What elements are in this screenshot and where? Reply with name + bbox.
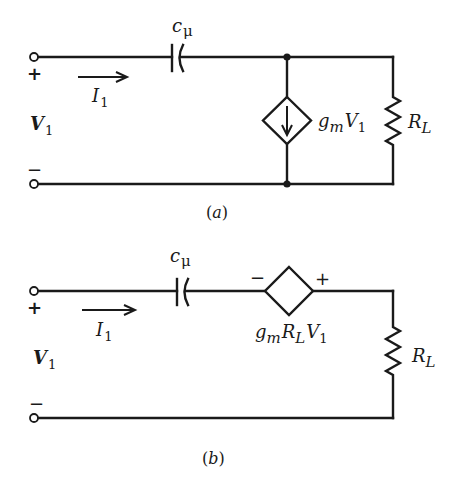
panel-a-voltage-label: V1 xyxy=(30,113,53,138)
panel-b-source-plus: + xyxy=(315,268,330,289)
panel-b-plus-sign: + xyxy=(27,297,42,318)
panel-b-load-label: RL xyxy=(411,345,436,371)
panel-a-dependent-current-source-icon xyxy=(263,97,311,144)
panel-b-voltage-label: V1 xyxy=(33,347,56,372)
panel-b-dependent-voltage-source-icon xyxy=(265,267,313,315)
panel-a-load-label: RL xyxy=(407,111,432,137)
panel-a-input-terminal-top xyxy=(30,53,38,61)
panel-b-current-label: I1 xyxy=(95,319,112,344)
panel-a-minus-sign: − xyxy=(27,159,42,180)
panel-b: cμ I1 + V1 − − + gmRLV1 RL (b) xyxy=(27,245,436,468)
panel-b-dependent-source-label: gmRLV1 xyxy=(255,321,328,347)
panel-a-dependent-source-label: gmV1 xyxy=(318,110,366,136)
panel-a-current-label: I1 xyxy=(91,85,108,110)
circuit-figure: cμ I1 + V1 − gmV1 RL (a) xyxy=(0,0,465,477)
panel-b-input-terminal-top xyxy=(30,287,38,295)
panel-a-capacitor-label: cμ xyxy=(172,15,193,40)
panel-b-caption: (b) xyxy=(202,449,225,468)
panel-b-input-terminal-bottom xyxy=(30,414,38,422)
panel-a-load-resistor-icon xyxy=(386,57,400,184)
panel-a-caption: (a) xyxy=(206,203,228,222)
panel-a: cμ I1 + V1 − gmV1 RL (a) xyxy=(27,15,432,222)
panel-b-source-minus: − xyxy=(250,267,265,288)
panel-b-minus-sign: − xyxy=(29,393,44,414)
panel-a-plus-sign: + xyxy=(27,63,42,84)
panel-b-capacitor-label: cμ xyxy=(170,245,191,270)
panel-a-input-terminal-bottom xyxy=(30,180,38,188)
panel-b-load-resistor-icon xyxy=(386,291,400,418)
